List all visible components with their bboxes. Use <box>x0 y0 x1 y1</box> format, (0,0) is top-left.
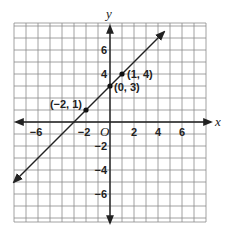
point-label: (0, 3) <box>114 81 140 93</box>
x-tick-label: 4 <box>155 126 162 138</box>
x-tick-label: −6 <box>30 126 43 138</box>
x-tick-label: 6 <box>179 126 185 138</box>
y-tick-label: −4 <box>94 164 107 176</box>
y-tick-label: −2 <box>94 140 107 152</box>
x-axis-label: x <box>214 114 221 129</box>
y-tick-label: −6 <box>94 188 107 200</box>
data-point <box>119 71 124 76</box>
point-label: (−2, 1) <box>50 98 82 110</box>
origin-label: O <box>100 124 110 139</box>
data-point <box>83 107 88 112</box>
axes: xyO <box>16 6 221 223</box>
y-tick-label: 6 <box>101 44 107 56</box>
line-series <box>14 32 164 182</box>
x-tick-label: 2 <box>131 126 137 138</box>
x-tick-label: −2 <box>78 126 91 138</box>
y-axis-label: y <box>104 6 112 21</box>
graph-line <box>14 32 164 182</box>
y-tick-label: 4 <box>101 68 108 80</box>
data-point <box>107 83 112 88</box>
point-label: (1, 4) <box>127 68 153 80</box>
coordinate-plane: xyO −6−224664−2−4−6 (−2, 1)(0, 3)(1, 4) <box>0 0 225 233</box>
